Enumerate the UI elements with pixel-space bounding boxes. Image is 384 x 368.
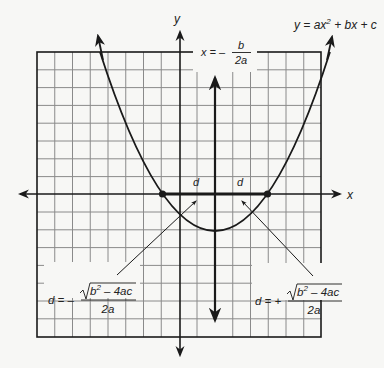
svg-text:b2 – 4ac: b2 – 4ac	[297, 284, 339, 298]
svg-text:b: b	[238, 39, 244, 51]
svg-text:x = –: x = –	[200, 46, 226, 58]
svg-text:d = +: d = +	[255, 295, 282, 307]
svg-text:d = –: d = –	[48, 294, 75, 306]
equation-label: y = ax2 + bx + c	[293, 17, 377, 32]
svg-text:2a: 2a	[307, 304, 321, 316]
svg-text:2a: 2a	[101, 303, 115, 315]
root-point-right	[264, 190, 271, 197]
distance-label-right: d	[237, 176, 244, 188]
distance-label-left: d	[193, 176, 200, 188]
svg-text:b2 – 4ac: b2 – 4ac	[90, 283, 132, 297]
parabola-diagram: y x y = ax2 + bx + c x = – b 2a d d d = …	[0, 0, 384, 368]
svg-text:2a: 2a	[234, 54, 247, 66]
root-point-left	[159, 190, 166, 197]
y-axis-label: y	[173, 12, 181, 26]
x-axis-label: x	[346, 188, 354, 202]
